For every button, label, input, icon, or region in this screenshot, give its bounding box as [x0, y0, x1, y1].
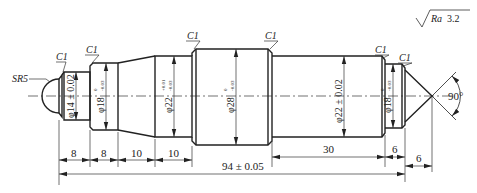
- diameter-22-left-lower: -0.03: [168, 80, 173, 91]
- length-seg2: 8: [101, 147, 107, 159]
- length-seg1: 8: [71, 147, 77, 159]
- diameter-28-lower: -0.03: [230, 80, 235, 91]
- shaft-outline: [42, 49, 432, 145]
- length-seg6: 6: [392, 143, 398, 155]
- chamfer-label-6: C1: [399, 52, 411, 63]
- length-seg7: 6: [416, 152, 422, 164]
- roughness-value: 3.2: [447, 13, 460, 24]
- diameter-label-18-left: φ18: [95, 97, 106, 113]
- chamfer-label-4: C1: [265, 30, 277, 41]
- length-seg4: 10: [168, 147, 180, 159]
- diameter-22-left-upper: +0.01: [161, 79, 166, 91]
- surface-roughness-icon: [416, 10, 470, 27]
- length-seg3: 10: [131, 147, 143, 159]
- chamfer-label-3: C1: [187, 30, 199, 41]
- diameter-label-22-right: φ22 ± 0.02: [333, 79, 344, 123]
- diameter-18-left-upper: 0: [93, 88, 98, 91]
- length-overall: 94 ± 0.05: [222, 160, 264, 172]
- diameter-label-28: φ28: [225, 97, 236, 113]
- chamfer-label-2: C1: [86, 44, 98, 55]
- shaft-drawing: 90° 8 8 10 10 30 6 6 94 ± 0.05: [0, 0, 477, 193]
- angle-label: 90°: [448, 90, 463, 102]
- diameter-label-22-left: φ22: [163, 97, 174, 113]
- length-seg5: 30: [323, 143, 335, 155]
- diameter-label-14: φ14 ± 0.02: [65, 74, 76, 118]
- chamfer-label-1: C1: [56, 51, 68, 62]
- chamfer-label-5: C1: [375, 44, 387, 55]
- sphere-radius-label: SR5: [12, 73, 28, 84]
- diameter-label-18-right: φ18: [382, 97, 393, 113]
- diameter-18-left-lower: -0.03: [100, 80, 105, 91]
- roughness-prefix: Ra: [430, 13, 442, 24]
- diameter-28-upper: 0: [223, 88, 228, 91]
- diameter-18-right-lower: -0.03: [387, 80, 392, 91]
